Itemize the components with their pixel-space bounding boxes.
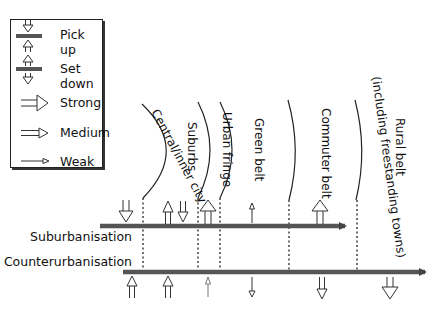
arrow-up-weak-icon xyxy=(206,277,211,297)
boundary-commuter xyxy=(355,100,362,200)
legend-label-weak: Weak xyxy=(60,154,94,169)
legend: Pick up Set down Strong Medium Weak xyxy=(10,19,103,168)
zone-label-commuter: Commuter belt xyxy=(319,108,333,199)
arrow-down-medium-icon xyxy=(317,277,327,299)
zone-label-suburbs: Suburbs xyxy=(185,122,199,171)
arrow-down-strong-icon xyxy=(382,277,398,299)
arrow-up-medium-icon xyxy=(163,276,173,298)
arrow-up-strong-icon xyxy=(200,200,216,224)
suburbanisation-label: Suburbanisation xyxy=(30,229,132,244)
zone-label-urban-fringe: Urban fringe xyxy=(220,112,234,187)
medium-arrow-icon xyxy=(21,128,48,138)
weak-arrow-icon xyxy=(21,159,49,164)
arrow-down-medium-icon xyxy=(178,201,188,222)
arrow-up-medium-icon xyxy=(127,276,137,298)
pick-up-icon xyxy=(16,20,42,52)
legend-label-strong: Strong xyxy=(60,95,101,110)
legend-label-pick-up: Pick up xyxy=(60,27,102,57)
arrow-down-weak-icon xyxy=(249,277,255,297)
zone-labels: Central/inner city Suburbs Urban fringe … xyxy=(148,75,408,258)
arrow-down-medium-icon xyxy=(119,200,133,222)
boundary-green-belt xyxy=(288,100,295,200)
legend-label-medium: Medium xyxy=(60,125,110,140)
zone-label-central: Central/inner city xyxy=(148,107,209,206)
arrow-up-medium-icon xyxy=(163,201,173,224)
arrow-up-weak-icon xyxy=(250,203,255,223)
zone-label-green-belt: Green belt xyxy=(252,118,266,181)
arrow-up-strong-icon xyxy=(312,200,328,224)
set-down-icon xyxy=(16,55,42,84)
strong-arrow-icon xyxy=(21,95,48,111)
legend-label-set-down: Set down xyxy=(60,61,102,91)
counterurbanisation-label: Counterurbanisation xyxy=(4,254,132,269)
